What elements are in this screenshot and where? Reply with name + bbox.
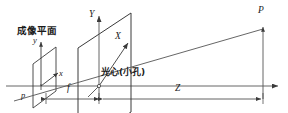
world-z-axis-stub xyxy=(88,86,99,97)
optical-center-label: 光心(小孔) xyxy=(101,68,145,77)
figure-canvas xyxy=(0,0,288,113)
image-point-label: p xyxy=(21,91,25,100)
depth-label: Z xyxy=(175,84,180,94)
pinhole-node xyxy=(97,84,100,87)
pinhole-camera-model-figure: 成像平面 y x p Y X P 光心(小孔) f Z xyxy=(0,0,288,113)
focal-length-label: f xyxy=(67,84,70,94)
dimension-depth xyxy=(103,93,263,104)
imaging-plane-title: 成像平面 xyxy=(17,26,57,36)
image-plane-x-axis-label: x xyxy=(59,69,63,78)
image-plane-y-axis-label: y xyxy=(33,36,37,45)
world-y-axis-label: Y xyxy=(89,10,94,20)
dimension-focal-length xyxy=(46,93,99,104)
world-plane-parallelogram xyxy=(78,13,131,113)
image-plane-x-axis xyxy=(41,73,58,86)
world-x-axis xyxy=(99,43,128,86)
world-x-axis-label: X xyxy=(115,32,121,42)
world-point-label: P xyxy=(258,6,264,16)
principal-ray xyxy=(14,29,263,101)
